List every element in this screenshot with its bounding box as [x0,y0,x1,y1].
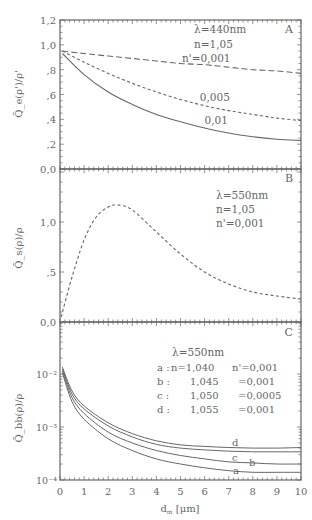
panel-c: 10⁻⁴10⁻³10⁻²Q̄_bb(ρ)/ρCλ=550nma :n=1,040… [13,322,301,486]
y-axis-label: Q̄_bb(ρ)/ρ [13,393,25,442]
legend-n: 1,045 [190,376,219,387]
panel-b: 0,0,51,0Q̄_s(ρ)/ρBλ=550nmn=1,05n'=0,001 [13,169,301,328]
y-axis-label: Q̄_s(ρ)/ρ [13,227,25,268]
x-tick-label: 5 [177,486,183,497]
y-tick-label: ,8 [46,65,56,76]
x-tick-label: 0 [57,486,63,497]
x-tick-label: 8 [250,486,256,497]
series-line [61,205,301,317]
x-tick-label: 9 [274,486,280,497]
x-axis-label: dm [μm] [160,503,199,515]
y-tick-label: 10⁻⁴ [36,475,57,486]
y-tick-label: 1,0 [40,217,56,228]
x-tick-label: 3 [129,486,135,497]
plot-frame [60,20,301,169]
annotation-text: n'=0,001 [216,217,265,229]
series-line-a [62,373,301,472]
annotation-text: n=1,05 [194,38,233,50]
y-tick-label: 10⁻³ [36,422,57,433]
panel-letter: B [285,172,293,185]
panel-a: 0,0,2,4,6,81,01,2Q̄_e(ρ')/ρ'Aλ=440nmn=1,… [13,15,301,175]
y-tick-label: 1,2 [40,15,56,26]
x-tick-label: 1 [81,486,87,497]
y-tick-label: 0,0 [40,317,56,328]
annotation-text: λ=550nm [216,189,268,201]
x-tick-label: 7 [226,486,232,497]
legend-nprime: =0,001 [238,404,275,415]
annotation-text: n=1,05 [216,203,255,215]
legend-nprime: =0,0005 [238,390,281,401]
curve-label-c: c [232,452,238,463]
y-tick-label: ,6 [46,90,56,101]
panel-letter: C [285,326,293,339]
series-label: 0,005 [200,91,230,103]
x-tick-label: 4 [153,486,159,497]
series-line-0,01 [62,54,301,141]
y-tick-label: 0,0 [40,164,56,175]
curve-label-a: a [233,465,239,476]
y-tick-label: 1,0 [40,40,56,51]
curve-label-d: d [232,437,239,448]
x-tick-label: 10 [295,486,308,497]
annotation-text: n'=0,001 [182,52,231,64]
legend-n: n=1,040 [171,362,214,373]
legend-nprime: =0,001 [238,376,275,387]
y-axis-label: Q̄_e(ρ')/ρ' [13,70,25,118]
annotation-text: λ=440nm [194,23,246,35]
y-tick-label: 10⁻² [36,369,57,380]
legend-nprime: n'=0,001 [232,362,278,373]
x-tick-label: 2 [105,486,111,497]
x-tick-label: 6 [201,486,207,497]
y-tick-label: ,5 [46,267,56,278]
x-axis-labels: 012345678910dm [μm] [57,486,308,515]
figure: 0,0,2,4,6,81,01,2Q̄_e(ρ')/ρ'Aλ=440nmn=1,… [0,0,312,520]
legend-n: 1,055 [190,404,219,415]
panel-letter: A [284,23,294,36]
legend-key: b : [157,376,170,387]
legend-key: d : [157,404,170,415]
y-tick-label: ,2 [46,139,56,150]
series-label: 0,01 [205,114,228,126]
y-tick-label: ,4 [46,114,56,125]
annotation-title: λ=550nm [172,346,224,358]
legend-n: 1,050 [190,390,219,401]
curve-label-b: b [249,457,255,468]
legend-key: c : [157,390,169,401]
legend-key: a : [157,362,170,373]
